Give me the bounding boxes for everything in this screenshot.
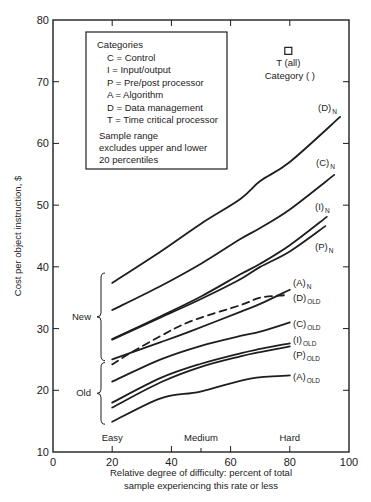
y-tick-label: 60 — [37, 137, 49, 149]
series-label: (D)N — [318, 102, 337, 115]
series-labels: (D)N(C)N(I)N(P)N(A)N(D)OLD(C)OLD(I)OLD(P… — [293, 102, 337, 384]
series-label: (C)OLD — [293, 318, 321, 331]
series-label: (P)N — [315, 241, 334, 254]
point-markers: T (all)Category ( ) — [265, 47, 315, 80]
legend-entry: P = Pre/post processor — [107, 77, 204, 88]
legend-note: 20 percentiles — [99, 154, 158, 165]
old-group-label: Old — [76, 387, 91, 398]
old-group-brace — [97, 363, 105, 425]
y-tick-label: 70 — [37, 76, 49, 88]
legend-box: CategoriesC = ControlI = Input/outputP =… — [86, 32, 227, 169]
series-label: (A)OLD — [293, 371, 320, 384]
series-label: (A)N — [293, 277, 312, 290]
category-note: Category ( ) — [265, 70, 315, 81]
t-all-marker — [285, 47, 292, 54]
y-tick-label: 10 — [37, 446, 49, 458]
new-group-brace — [97, 273, 105, 361]
x-axis-label: Relative degree of difficulty: percent o… — [110, 467, 292, 478]
series-label: (D)OLD — [293, 292, 321, 305]
difficulty-label: Hard — [280, 432, 301, 443]
chart: 0204060801001020304050607080Relative deg… — [0, 0, 371, 502]
series-line-cn — [112, 175, 334, 310]
legend-note: Sample range — [99, 130, 158, 141]
legend-entry: T = Time critical processor — [107, 114, 218, 125]
y-tick-label: 30 — [37, 323, 49, 335]
legend-note: excludes upper and lower — [99, 142, 207, 153]
x-tick-label: 0 — [50, 456, 56, 468]
x-tick-label: 100 — [340, 456, 358, 468]
group-braces: NewOld — [72, 273, 105, 424]
legend-entry: I = Input/output — [107, 64, 171, 75]
legend-title: Categories — [97, 39, 143, 50]
y-axis-label: Cost per object instruction, $ — [12, 175, 23, 296]
series-label: (P)OLD — [293, 349, 320, 362]
legend-entry: D = Data management — [107, 102, 203, 113]
y-tick-label: 80 — [37, 14, 49, 26]
series-label: (C)N — [316, 157, 335, 170]
y-tick-label: 40 — [37, 261, 49, 273]
series-line-aold — [112, 375, 290, 421]
x-axis-label: sample experiencing this rate or less — [124, 480, 278, 491]
y-tick-label: 50 — [37, 199, 49, 211]
difficulty-label: Medium — [184, 432, 218, 443]
difficulty-label: Easy — [102, 432, 123, 443]
new-group-label: New — [72, 311, 91, 322]
series-label: (I)OLD — [293, 334, 317, 347]
legend-entry: A = Algorithm — [107, 89, 163, 100]
legend-entry: C = Control — [107, 52, 155, 63]
series-label: (I)N — [315, 201, 330, 214]
t-all-label: T (all) — [276, 57, 300, 68]
y-tick-label: 20 — [37, 384, 49, 396]
